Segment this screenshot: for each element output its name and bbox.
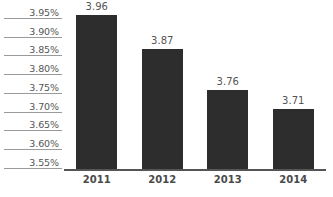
x-axis-tick-label: 2014	[261, 174, 327, 185]
y-axis-tick-label: 3.60%	[29, 138, 59, 149]
bar-chart: 4.00%3.95%3.90%3.85%3.80%3.75%3.70%3.65%…	[0, 0, 333, 197]
bar	[142, 49, 183, 169]
y-axis-tick-label: 3.85%	[29, 44, 59, 55]
bar-value-label: 3.87	[130, 35, 196, 46]
bar	[207, 90, 248, 169]
y-axis-tick-rule	[4, 168, 62, 169]
y-axis-tick-rule	[4, 55, 62, 56]
y-axis-tick-rule	[4, 130, 62, 131]
bar-value-label: 3.96	[64, 1, 130, 12]
bar-value-label: 3.71	[261, 95, 327, 106]
y-axis-tick-label: 3.95%	[29, 7, 59, 18]
bar-value-label: 3.76	[195, 76, 261, 87]
bar-group: 3.87	[130, 0, 196, 169]
bar	[76, 15, 117, 169]
x-axis-baseline	[64, 169, 326, 171]
x-axis-tick-label: 2012	[130, 174, 196, 185]
y-axis-tick-label: 3.75%	[29, 82, 59, 93]
y-axis-tick-rule	[4, 112, 62, 113]
y-axis: 4.00%3.95%3.90%3.85%3.80%3.75%3.70%3.65%…	[0, 0, 64, 170]
y-axis-tick-label: 3.55%	[29, 157, 59, 168]
y-axis-tick-label: 3.90%	[29, 26, 59, 37]
x-axis: 2011201220132014	[64, 172, 326, 194]
y-axis-tick-label: 3.80%	[29, 63, 59, 74]
y-axis-tick-rule	[4, 18, 62, 19]
plot-area: 3.963.873.763.71	[64, 0, 326, 170]
y-axis-tick-rule	[4, 149, 62, 150]
x-axis-tick-label: 2011	[64, 174, 130, 185]
y-axis-tick-rule	[4, 37, 62, 38]
y-axis-tick-label: 3.65%	[29, 119, 59, 130]
y-axis-tick-label: 3.70%	[29, 101, 59, 112]
y-axis-tick-rule	[4, 93, 62, 94]
x-axis-tick-label: 2013	[195, 174, 261, 185]
bar-group: 3.96	[64, 0, 130, 169]
bar-group: 3.71	[261, 0, 327, 169]
bar-group: 3.76	[195, 0, 261, 169]
y-axis-tick-rule	[4, 74, 62, 75]
bar	[273, 109, 314, 169]
